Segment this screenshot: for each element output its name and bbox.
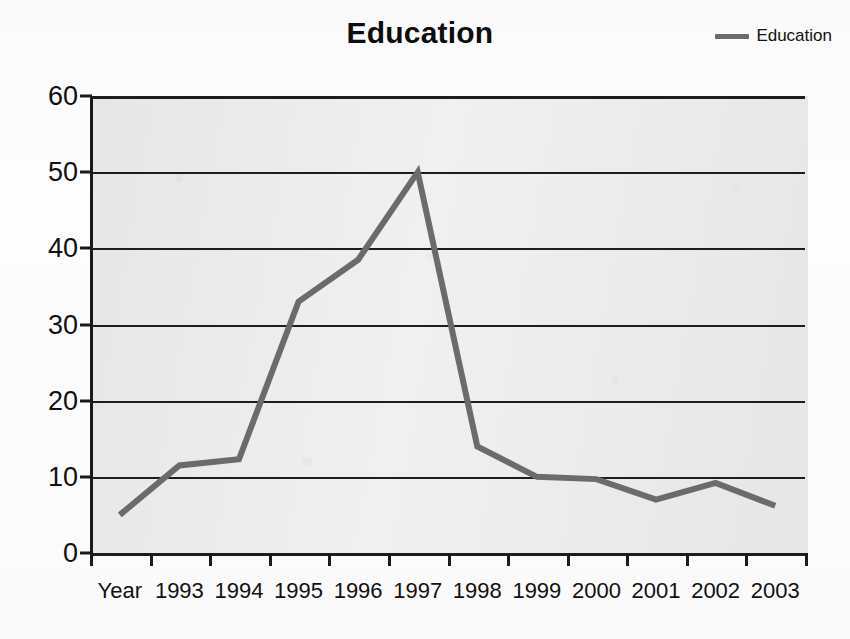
y-tick-label-0: 0: [18, 538, 78, 569]
y-tick-label-40: 40: [18, 233, 78, 264]
y-tick-mark-30: [80, 323, 92, 326]
gridline-30: [90, 325, 805, 327]
y-tick-label-10: 10: [18, 461, 78, 492]
x-tick-mark-year: [90, 553, 93, 566]
x-tick-mark-end: [805, 553, 808, 566]
gridline-40: [90, 248, 805, 250]
chart-legend: Education: [715, 26, 832, 46]
gridline-20: [90, 401, 805, 403]
x-tick-mark-2002: [686, 553, 689, 566]
y-tick-label-50: 50: [18, 157, 78, 188]
y-tick-label-30: 30: [18, 309, 78, 340]
chart-title: Education: [0, 16, 840, 50]
x-tick-mark-2001: [626, 553, 629, 566]
y-tick-label-60: 60: [18, 81, 78, 112]
x-tick-mark-2000: [567, 553, 570, 566]
y-tick-label-20: 20: [18, 385, 78, 416]
x-tick-mark-2003: [745, 553, 748, 566]
line-chart-figure: Education Education 0102030405060 Year19…: [0, 0, 850, 639]
y-tick-mark-60: [80, 95, 92, 98]
x-tick-label-2003: 2003: [727, 578, 823, 604]
y-tick-mark-40: [80, 247, 92, 250]
x-tick-mark-1994: [209, 553, 212, 566]
y-tick-mark-20: [80, 399, 92, 402]
y-tick-mark-10: [80, 475, 92, 478]
x-tick-mark-1999: [507, 553, 510, 566]
x-tick-mark-1998: [448, 553, 451, 566]
x-tick-mark-1995: [269, 553, 272, 566]
legend-line-swatch-icon: [715, 34, 749, 39]
gridline-10: [90, 477, 805, 479]
y-tick-mark-50: [80, 171, 92, 174]
x-tick-mark-1997: [388, 553, 391, 566]
gridline-60: [90, 96, 805, 99]
gridline-50: [90, 172, 805, 174]
x-tick-mark-1996: [328, 553, 331, 566]
x-tick-mark-1993: [150, 553, 153, 566]
legend-label-education: Education: [756, 26, 832, 46]
